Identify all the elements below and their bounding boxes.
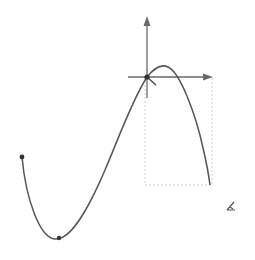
curve-path[interactable] xyxy=(22,66,210,239)
dashed-bounding-box xyxy=(145,77,212,185)
diagram-canvas[interactable] xyxy=(0,0,255,260)
horizontal-axis xyxy=(128,74,213,81)
minimum-point[interactable] xyxy=(57,236,61,240)
start-point[interactable] xyxy=(20,155,25,160)
arrow-up-icon xyxy=(144,16,151,26)
pen-cursor-icon xyxy=(227,202,235,210)
